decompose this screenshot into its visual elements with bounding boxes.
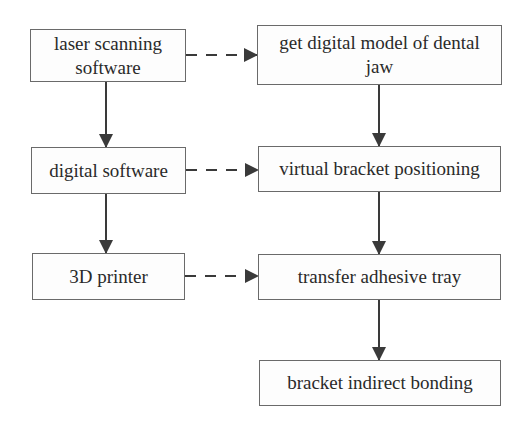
node-bracket-indirect-bonding: bracket indirect bonding (259, 360, 501, 406)
node-get-digital-model: get digital model of dental jaw (257, 25, 502, 85)
node-label: digital software (49, 159, 168, 183)
node-laser-scanning-software: laser scanning software (30, 29, 186, 82)
node-label: bracket indirect bonding (287, 371, 473, 395)
node-label: 3D printer (69, 265, 148, 289)
node-label: laser scanning software (48, 32, 168, 80)
node-transfer-adhesive-tray: transfer adhesive tray (258, 254, 501, 300)
node-label: virtual bracket positioning (279, 157, 480, 181)
node-3d-printer: 3D printer (32, 253, 185, 300)
node-digital-software: digital software (31, 147, 186, 194)
node-label: get digital model of dental jaw (265, 31, 495, 79)
node-virtual-bracket-positioning: virtual bracket positioning (258, 146, 501, 192)
node-label: transfer adhesive tray (298, 265, 462, 289)
